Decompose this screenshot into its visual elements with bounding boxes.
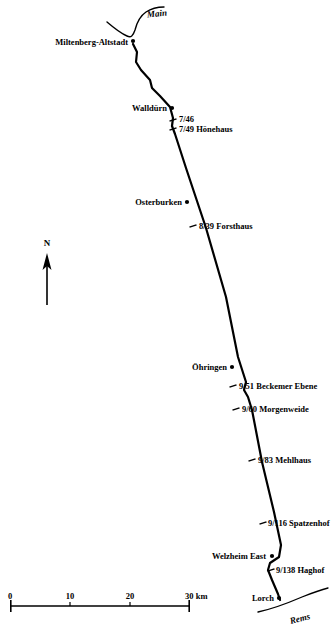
station-dot-oehringen <box>230 365 234 369</box>
scale-label-1: 10 <box>66 592 75 601</box>
station-tick-960-morgenweide <box>233 408 240 410</box>
station-label-miltenberg-altstadt: Miltenberg-Altstadt <box>55 38 128 47</box>
station-label-welzheim-east: Welzheim East <box>212 552 266 561</box>
station-label-9116-spatzenhof: 9/116 Spatzenhof <box>268 519 330 528</box>
station-label-9138-haghof: 9/138 Haghof <box>276 566 324 575</box>
station-label-oehringen: Öhringen <box>192 363 227 372</box>
station-label-749-hoenehaus: 7/49 Hönehaus <box>179 125 233 134</box>
map-canvas <box>0 0 331 634</box>
station-label-839-forsthaus: 8/39 Forsthaus <box>199 222 253 231</box>
station-dot-osterburken <box>185 200 189 204</box>
station-label-951-beckemer-ebene: 9/51 Beckemer Ebene <box>239 382 317 391</box>
station-label-wallduern: Walldürn <box>132 104 167 113</box>
station-dot-miltenberg-altstadt <box>131 39 135 43</box>
station-label-lorch: Lorch <box>252 594 274 603</box>
map-figure: Miltenberg-AltstadtWalldürn7/467/49 Höne… <box>0 0 331 634</box>
station-dot-lorch <box>277 596 281 600</box>
station-dot-welzheim-east <box>270 554 274 558</box>
scale-bar <box>10 600 190 612</box>
station-label-746: 7/46 <box>179 115 194 124</box>
station-tick-983-mehlhaus <box>249 459 256 461</box>
station-dot-wallduern <box>170 106 174 110</box>
scale-label-2: 20 <box>126 592 135 601</box>
station-tick-839-forsthaus <box>190 225 197 227</box>
station-tick-951-beckemer-ebene <box>230 385 237 387</box>
station-label-osterburken: Osterburken <box>135 198 182 207</box>
station-tick-9116-spatzenhof <box>260 522 267 524</box>
station-label-960-morgenweide: 9/60 Morgenweide <box>242 405 309 414</box>
north-arrow-label: N <box>44 239 51 248</box>
scale-label-0: 0 <box>8 592 12 601</box>
north-arrow <box>43 253 52 305</box>
station-label-983-mehlhaus: 9/83 Mehlhaus <box>258 456 311 465</box>
scale-label-3: 30 km <box>185 592 207 601</box>
